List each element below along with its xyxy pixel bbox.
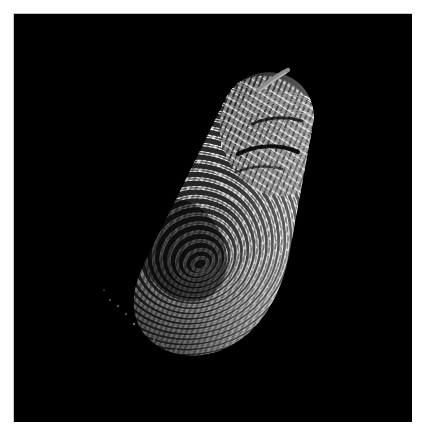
fingerprint-scan-canvas xyxy=(14,14,412,422)
fingerprint-render xyxy=(14,14,412,422)
fingerprint-scan-frame xyxy=(14,14,412,422)
image-page xyxy=(0,0,429,439)
